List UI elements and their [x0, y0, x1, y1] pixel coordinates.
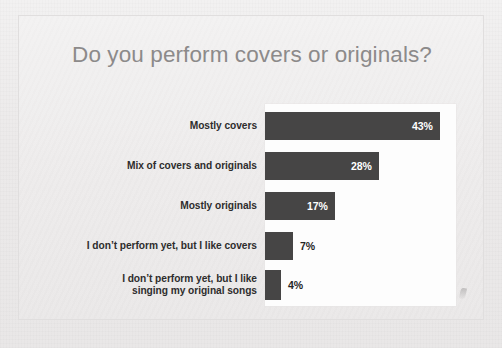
- chart-title: Do you perform covers or originals?: [19, 42, 485, 68]
- category-label-line: Mostly originals: [19, 200, 257, 213]
- category-label-line: I don’t perform yet, but I like covers: [19, 240, 257, 253]
- bar-track: 4%: [265, 270, 485, 300]
- bar-row: Mostly covers43%: [19, 112, 485, 140]
- bar[interactable]: [265, 232, 293, 260]
- bar-rows: Mostly covers43%Mix of covers and origin…: [19, 104, 485, 306]
- bar-value-label: 43%: [412, 120, 433, 132]
- chart-frame: Do you perform covers or originals? Most…: [18, 15, 484, 320]
- category-label: Mostly covers: [19, 120, 265, 133]
- bar-track: 7%: [265, 232, 485, 260]
- bar-value-label: 17%: [307, 200, 328, 212]
- bar[interactable]: 17%: [265, 192, 335, 220]
- caption-partial: [120, 338, 375, 347]
- category-label: Mix of covers and originals: [19, 160, 265, 173]
- category-label: I don’t perform yet, but I like covers: [19, 240, 265, 253]
- category-label-line: Mix of covers and originals: [19, 160, 257, 173]
- category-label-line: Mostly covers: [19, 120, 257, 133]
- bar-track: 43%: [265, 112, 485, 140]
- bar[interactable]: 28%: [265, 152, 379, 180]
- bar[interactable]: 43%: [265, 112, 440, 140]
- category-label: Mostly originals: [19, 200, 265, 213]
- bar-value-label: 28%: [351, 160, 372, 172]
- bar-track: 17%: [265, 192, 485, 220]
- bar-value-label: 4%: [281, 279, 303, 291]
- bar-row: Mix of covers and originals28%: [19, 152, 485, 180]
- category-label-line: I don’t perform yet, but I like: [19, 273, 257, 286]
- bar[interactable]: [265, 270, 281, 300]
- bar-row: I don’t perform yet, but I like covers7%: [19, 232, 485, 260]
- bar-value-label: 7%: [293, 240, 315, 252]
- bar-row: I don’t perform yet, but I likesinging m…: [19, 270, 485, 300]
- bar-track: 28%: [265, 152, 485, 180]
- bar-row: Mostly originals17%: [19, 192, 485, 220]
- category-label: I don’t perform yet, but I likesinging m…: [19, 273, 265, 298]
- category-label-line: singing my original songs: [19, 285, 257, 298]
- page-background: Do you perform covers or originals? Most…: [0, 0, 502, 348]
